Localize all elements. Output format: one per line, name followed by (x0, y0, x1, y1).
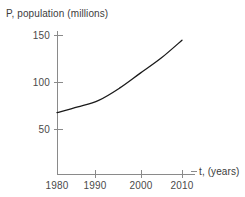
population-growth-chart: P, population (millions) t, (years) 150 … (0, 0, 245, 197)
plot-area (0, 0, 245, 197)
population-curve (57, 40, 182, 112)
